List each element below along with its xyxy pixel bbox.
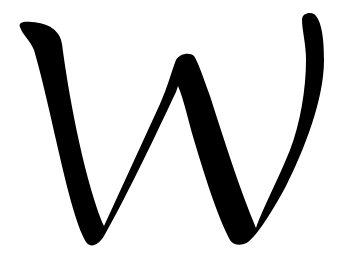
letter-w-figure: W — [0, 0, 364, 262]
letter-w-icon: W — [0, 0, 364, 262]
